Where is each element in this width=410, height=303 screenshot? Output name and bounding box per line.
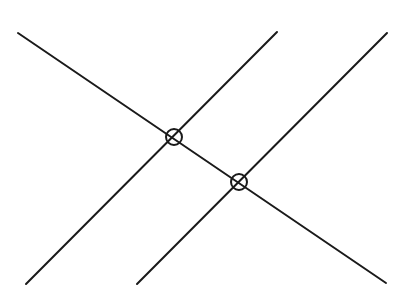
diagram-canvas — [0, 0, 410, 303]
